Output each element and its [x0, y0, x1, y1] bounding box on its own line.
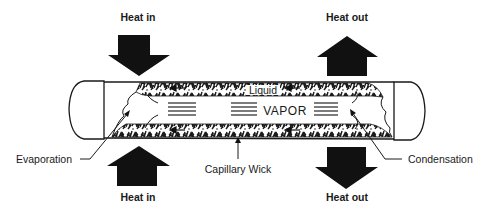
heat-in-top-group: Heat in: [108, 11, 170, 76]
heat-pipe-diagram: Heat in Heat out Liquid: [0, 0, 495, 218]
vapor-label: VAPOR: [263, 104, 307, 118]
capillary-wick-label: Capillary Wick: [205, 163, 272, 175]
heat-out-bottom-label: Heat out: [326, 191, 369, 203]
condensation-label: Condensation: [408, 153, 473, 165]
heat-out-up-arrow-icon: [317, 36, 378, 76]
heat-in-up-arrow-icon: [107, 146, 170, 186]
heat-in-down-arrow-icon: [108, 35, 170, 76]
heat-out-top-group: Heat out: [317, 11, 378, 76]
heat-out-bottom-group: Heat out: [315, 147, 378, 203]
heat-out-down-arrow-icon: [315, 147, 378, 189]
heat-in-top-label: Heat in: [120, 11, 155, 23]
right-end-cap: [394, 82, 425, 140]
condensation-curl-arrows: [352, 91, 358, 129]
heat-out-top-label: Heat out: [326, 11, 369, 23]
evaporation-label: Evaporation: [16, 153, 72, 165]
heat-in-bottom-label: Heat in: [120, 191, 155, 203]
capillary-wick-callout: Capillary Wick: [205, 137, 272, 175]
left-end-cap: [69, 81, 104, 139]
bottom-capillary-wick: [112, 124, 392, 137]
vapor-flow-lines: [168, 103, 338, 115]
liquid-label: Liquid: [249, 84, 277, 96]
evaporation-curl-arrows: [145, 92, 158, 128]
heat-pipe-tube: Liquid VAPOR: [69, 81, 425, 140]
heat-in-bottom-group: Heat in: [107, 146, 170, 203]
